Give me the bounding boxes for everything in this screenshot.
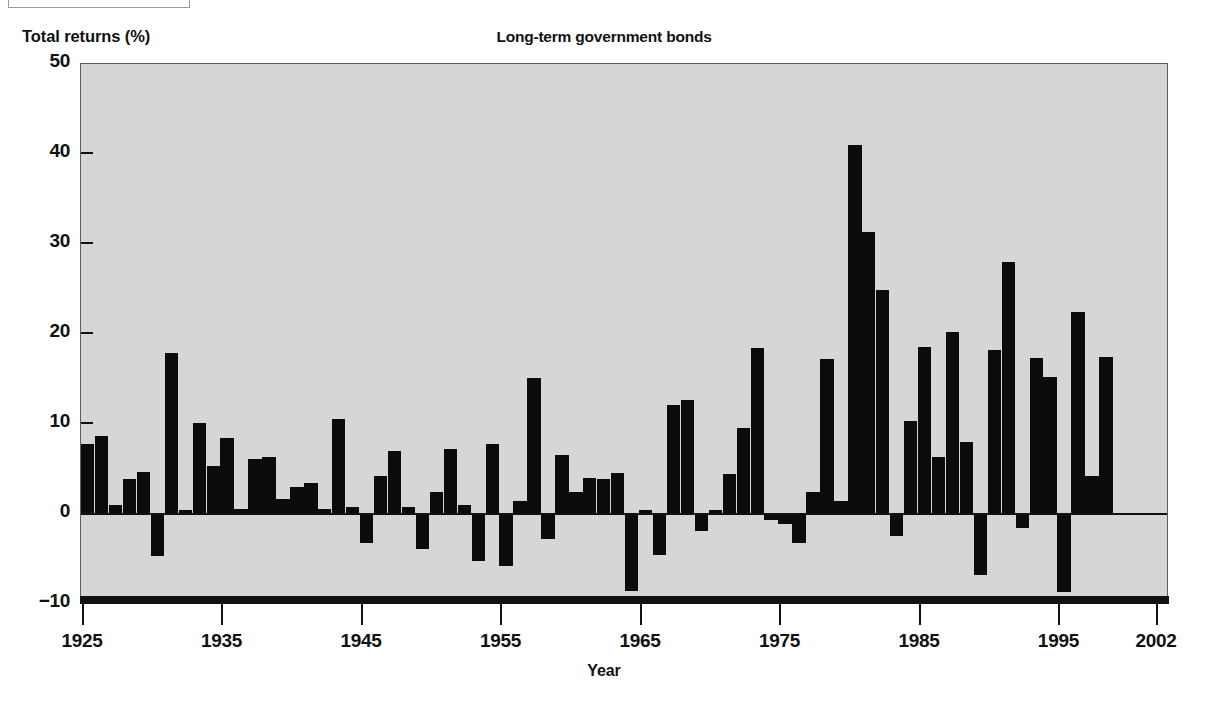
bar [1016, 514, 1029, 528]
bar [806, 492, 819, 514]
x-tick-mark [1156, 604, 1158, 625]
y-tick-mark [81, 242, 93, 244]
x-tick-label: 1985 [869, 630, 969, 652]
bar [1030, 358, 1043, 514]
bar [165, 353, 178, 514]
bar [360, 514, 373, 543]
bar [555, 455, 568, 514]
y-tick-mark [81, 512, 93, 514]
bar [723, 474, 736, 514]
zero-baseline [81, 513, 1167, 515]
bar [95, 436, 108, 514]
bar [499, 514, 512, 566]
bar [1071, 312, 1084, 514]
x-tick-label: 2002 [1106, 630, 1206, 652]
bar [1002, 262, 1015, 514]
x-tick-label: 1925 [32, 630, 132, 652]
bar [778, 514, 791, 524]
bar [667, 405, 680, 514]
bar [248, 459, 261, 514]
bar [820, 359, 833, 514]
bar-series [81, 64, 1167, 602]
x-tick-label: 1965 [590, 630, 690, 652]
bar [890, 514, 903, 536]
x-tick-mark [361, 604, 363, 625]
bar [527, 378, 540, 514]
y-tick-label: 30 [8, 230, 70, 252]
bar [290, 487, 303, 514]
x-tick-mark [500, 604, 502, 625]
bar [1057, 514, 1070, 592]
x-tick-label: 1945 [311, 630, 411, 652]
y-tick-label: 0 [8, 500, 70, 522]
x-tick-mark [640, 604, 642, 625]
bar [374, 476, 387, 514]
bar [904, 421, 917, 514]
x-tick-mark [82, 604, 84, 625]
x-axis-title: Year [0, 662, 1208, 680]
bar [695, 514, 708, 531]
y-tick-mark [81, 152, 93, 154]
bar [193, 423, 206, 514]
chart-title: Long-term government bonds [0, 28, 1208, 46]
bar [597, 479, 610, 514]
bar [946, 332, 959, 514]
x-tick-mark [1058, 604, 1060, 625]
bar [81, 444, 94, 514]
x-tick-label: 1955 [450, 630, 550, 652]
bar [416, 514, 429, 549]
x-tick-label: 1975 [729, 630, 829, 652]
bar [1043, 377, 1056, 514]
y-tick-label: −10 [8, 590, 70, 612]
x-tick-mark [919, 604, 921, 625]
bar [513, 501, 526, 515]
y-tick-label: 20 [8, 320, 70, 342]
bar [541, 514, 554, 539]
bar [332, 419, 345, 514]
x-tick-mark [221, 604, 223, 625]
bar [988, 350, 1001, 514]
bar [444, 449, 457, 514]
x-tick-label: 1995 [1008, 630, 1108, 652]
bar [151, 514, 164, 556]
bar [304, 483, 317, 515]
bar [932, 457, 945, 514]
bar [1099, 357, 1112, 514]
bar [653, 514, 666, 555]
bar [207, 466, 220, 514]
y-tick-mark [81, 422, 93, 424]
bar [583, 478, 596, 514]
bar [430, 492, 443, 515]
bar [262, 457, 275, 514]
y-tick-mark [81, 332, 93, 334]
bar [123, 479, 136, 514]
bar [625, 514, 638, 591]
y-tick-label: 50 [8, 50, 70, 72]
bond-returns-chart-figure: Total returns (%) Long-term government b… [0, 0, 1208, 714]
bar [569, 492, 582, 515]
bar [974, 514, 987, 575]
y-tick-label: 10 [8, 410, 70, 432]
bar [611, 473, 624, 514]
bar [472, 514, 485, 561]
bar [388, 451, 401, 514]
bar [486, 444, 499, 514]
bar [876, 290, 889, 514]
bar [220, 438, 233, 514]
bar [918, 347, 931, 514]
bar [862, 232, 875, 514]
bar [137, 472, 150, 514]
bar [792, 514, 805, 543]
y-tick-label: 40 [8, 140, 70, 162]
bar [1085, 476, 1098, 514]
bar [737, 428, 750, 514]
bar [960, 442, 973, 514]
plot-area [80, 63, 1168, 603]
x-tick-mark [779, 604, 781, 625]
bar [681, 400, 694, 514]
bar [751, 348, 764, 514]
bottom-axis-rule [80, 596, 1169, 604]
bar [848, 145, 861, 514]
x-tick-label: 1935 [171, 630, 271, 652]
bar [276, 499, 289, 514]
